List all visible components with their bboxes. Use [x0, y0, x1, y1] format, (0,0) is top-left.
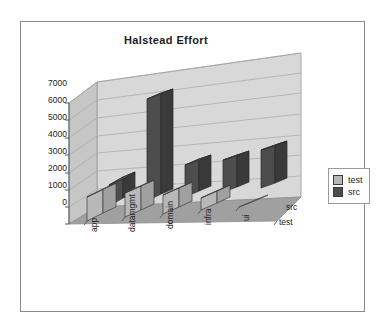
y-axis-ticks — [65, 103, 69, 224]
category-label-datamgmt: datamgmt — [127, 194, 137, 232]
legend-label-src: src — [348, 188, 360, 197]
category-label-app: app — [89, 218, 99, 232]
chart-legend: test src — [328, 168, 370, 204]
depth-label-test: test — [279, 217, 293, 227]
plot-svg — [21, 22, 366, 313]
legend-label-test: test — [348, 176, 363, 185]
plot-area: app datamgmt domain infra ui src test — [21, 22, 366, 313]
depth-label-src: src — [286, 202, 297, 212]
chart-frame: Halstead Effort 7000 6000 5000 4000 3000… — [20, 21, 365, 312]
category-label-ui: ui — [241, 214, 251, 221]
legend-swatch-src-icon — [333, 187, 343, 197]
legend-swatch-test-icon — [333, 175, 343, 185]
category-label-infra: infra — [203, 208, 213, 225]
legend-item-src[interactable]: src — [333, 187, 363, 197]
legend-item-test[interactable]: test — [333, 175, 363, 185]
category-label-domain: domain — [165, 201, 175, 229]
